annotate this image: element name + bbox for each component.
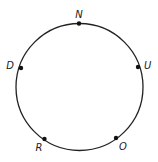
- circle-diagram: NDURO: [0, 0, 158, 162]
- point-u-dot: [136, 65, 140, 69]
- circle: [16, 24, 143, 151]
- point-d-dot: [19, 66, 23, 70]
- point-n-dot: [77, 21, 81, 25]
- point-u-label: U: [144, 60, 152, 71]
- point-r-dot: [42, 137, 46, 141]
- diagram-canvas: NDURO: [0, 0, 158, 162]
- points-layer: NDURO: [6, 9, 152, 153]
- point-r-label: R: [36, 142, 43, 153]
- point-n-label: N: [75, 9, 83, 20]
- point-o-dot: [114, 136, 118, 140]
- point-d-label: D: [6, 60, 14, 71]
- point-o-label: O: [119, 141, 127, 152]
